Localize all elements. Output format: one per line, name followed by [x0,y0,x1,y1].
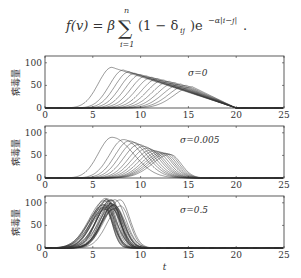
formula: f(v) = β ∑ n i=1 (1 − δ ij )e −α|i−j| . [65,6,247,49]
series-line [45,209,283,248]
formula-tail: . [243,18,247,33]
axes-box [45,126,284,178]
series-line [45,204,283,248]
sigma-annotation: σ=0 [188,68,208,78]
x-tick-label: 0 [42,250,48,260]
x-tick-label: 5 [90,110,96,120]
series-line [45,81,283,108]
y-tick-label: 100 [25,128,42,138]
y-tick-label: 0 [36,243,42,253]
y-tick-label: 0 [36,173,42,183]
sum-upper: n [124,6,129,15]
x-tick-label: 15 [183,250,195,260]
series-line [45,206,283,248]
series-line [45,85,283,108]
series-line [45,207,283,248]
y-tick-label: 50 [31,80,43,90]
series-line [45,208,283,248]
series-line [45,75,283,109]
x-tick-label: 25 [278,180,290,190]
series-line [45,205,283,248]
series-line [45,87,283,108]
x-tick-label: 25 [278,250,290,260]
series-line [45,206,283,248]
series-line [45,70,283,108]
series-line [45,155,283,179]
x-tick-label: 10 [135,250,147,260]
y-axis-label: 病毒量 [10,209,21,236]
series-line [45,143,283,178]
series-line [45,77,283,108]
y-tick-label: 0 [36,103,42,113]
series-line [45,200,283,248]
y-tick-label: 50 [31,220,43,230]
series-line [45,206,283,248]
series-line [45,207,283,248]
curves [45,198,283,248]
curves [45,137,283,178]
y-tick-label: 100 [25,198,42,208]
x-axis-label: t [163,262,167,272]
y-tick-label: 50 [31,150,43,160]
x-tick-label: 20 [230,110,242,120]
panel-0: 0510152025050100病毒量σ=0 [10,56,290,120]
sum-symbol: ∑ [118,16,133,40]
x-tick-label: 20 [230,250,242,260]
series-line [45,205,283,248]
x-tick-label: 10 [135,110,147,120]
series-line [45,145,283,179]
x-tick-label: 15 [183,110,195,120]
x-tick-label: 20 [230,180,242,190]
panel-1: 0510152025050100病毒量σ=0.005 [10,126,290,190]
formula-body2: )e [190,18,203,33]
series-line [45,154,283,178]
curves [45,67,283,108]
formula-exp: −α|i−j| [208,16,237,25]
sum-lower: i=1 [120,40,134,49]
y-axis-label: 病毒量 [10,139,21,166]
series-line [45,83,283,108]
series-line [45,205,283,248]
x-tick-label: 0 [42,110,48,120]
x-tick-label: 25 [278,110,290,120]
x-tick-label: 15 [183,180,195,190]
x-tick-label: 5 [90,180,96,190]
x-tick-label: 5 [90,250,96,260]
series-line [45,72,283,108]
sigma-annotation: σ=0.5 [180,205,208,215]
formula-lhs: f(v) = β [65,18,115,33]
figure: f(v) = β ∑ n i=1 (1 − δ ij )e −α|i−j| . … [0,0,301,278]
series-line [45,73,283,108]
series-line [45,208,283,248]
panel-2: 0510152025050100病毒量σ=0.5t [10,196,290,272]
series-line [45,205,283,248]
y-tick-label: 100 [25,58,42,68]
series-line [45,205,283,248]
formula-sub: ij [180,26,186,35]
sigma-annotation: σ=0.005 [180,135,220,145]
y-axis-label: 病毒量 [10,69,21,96]
x-tick-label: 10 [135,180,147,190]
formula-body: (1 − δ [138,18,179,33]
series-line [45,205,283,248]
x-tick-label: 0 [42,180,48,190]
series-line [45,137,283,178]
series-line [45,148,283,178]
